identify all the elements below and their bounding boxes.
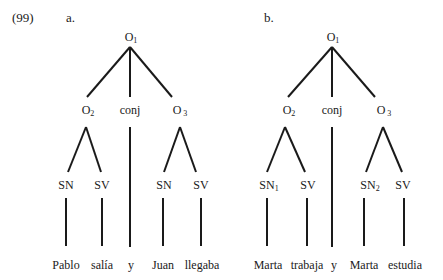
node-b-O1: O1: [327, 30, 340, 48]
node-subscript: 2: [90, 109, 94, 118]
node-a-O3: O 3: [173, 103, 188, 121]
node-a-SN-2: SN: [156, 178, 171, 192]
node-text: O: [125, 30, 134, 44]
node-text: O: [327, 30, 336, 44]
node-a-O2: O2: [82, 103, 95, 121]
node-b-conj: conj: [322, 103, 343, 117]
node-a-O1: O1: [125, 30, 138, 48]
node-b-SN2: SN2: [360, 178, 379, 196]
leaf-b-estudia: estudia: [388, 258, 422, 272]
leaf-b-y: y: [331, 258, 337, 272]
node-text: O: [82, 103, 91, 117]
node-b-SV: SV: [300, 178, 315, 192]
node-a-SV-2: SV: [193, 178, 208, 192]
node-b-O3: O 3: [377, 103, 392, 121]
node-text: O: [377, 103, 386, 117]
node-subscript: 3: [181, 109, 187, 118]
node-text: O: [283, 103, 292, 117]
leaf-a-juan: Juan: [152, 258, 174, 272]
node-subscript: 3: [385, 109, 391, 118]
node-subscript: 2: [291, 109, 295, 118]
tree-edges: [0, 0, 443, 280]
node-text: SN: [259, 178, 274, 192]
node-text: O: [173, 103, 182, 117]
leaf-b-marta-2: Marta: [350, 258, 379, 272]
node-text: SN: [360, 178, 375, 192]
node-a-conj: conj: [120, 103, 141, 117]
leaf-a-llegaba: llegaba: [185, 258, 220, 272]
node-subscript: 1: [335, 36, 339, 45]
node-a-SN: SN: [58, 178, 73, 192]
leaf-b-marta: Marta: [254, 258, 283, 272]
node-a-SV: SV: [94, 178, 109, 192]
leaf-a-pablo: Pablo: [52, 258, 79, 272]
leaf-a-salia: salía: [91, 258, 113, 272]
leaf-b-trabaja: trabaja: [291, 258, 324, 272]
node-b-O2: O2: [283, 103, 296, 121]
node-b-SN1: SN1: [259, 178, 278, 196]
leaf-a-y: y: [128, 258, 134, 272]
node-subscript: 1: [275, 184, 279, 193]
node-b-SV-2: SV: [395, 178, 410, 192]
node-subscript: 1: [133, 36, 137, 45]
node-subscript: 2: [376, 184, 380, 193]
